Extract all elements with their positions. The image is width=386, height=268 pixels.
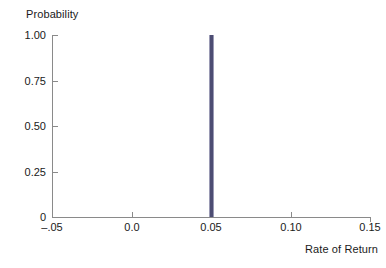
y-axis-tick-label: 0.50 <box>8 121 46 132</box>
x-axis-tick <box>291 212 292 217</box>
y-axis-tick <box>53 172 58 173</box>
x-axis-tick <box>132 212 133 217</box>
y-axis-tick-label: 0.75 <box>8 76 46 87</box>
x-axis-tick-label: 0.10 <box>261 222 321 233</box>
x-axis-tick-label: 0.05 <box>181 222 241 233</box>
probability-distribution-chart: Probability 00.250.500.751.00 –.050.00.0… <box>0 0 386 268</box>
y-axis-tick <box>53 126 58 127</box>
x-axis-tick-label: 0.15 <box>340 222 386 233</box>
x-axis-title: Rate of Return <box>0 243 378 256</box>
y-axis-tick <box>53 35 58 36</box>
y-axis-tick <box>53 217 58 218</box>
x-axis-tick-label: –.05 <box>22 222 82 233</box>
y-axis-title: Probability <box>26 8 78 21</box>
y-axis-tick <box>53 81 58 82</box>
x-axis-line <box>52 217 371 218</box>
plot-area <box>52 35 370 217</box>
x-axis-tick-label: 0.0 <box>102 222 162 233</box>
y-axis-tick-label: 0.25 <box>8 167 46 178</box>
y-axis-tick-label: 1.00 <box>8 30 46 41</box>
data-bar <box>209 35 214 217</box>
